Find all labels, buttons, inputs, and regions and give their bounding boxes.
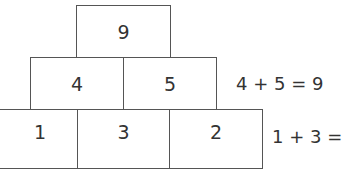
cell-value: 1 bbox=[34, 121, 46, 143]
pyramid-cell-top: 9 bbox=[76, 5, 171, 58]
pyramid-cell-bottom-left: 1 bbox=[0, 109, 78, 169]
pyramid-cell-middle-right: 5 bbox=[123, 57, 217, 110]
equation-middle-row: 4 + 5 = 9 bbox=[236, 73, 323, 94]
cell-value: 2 bbox=[210, 121, 222, 143]
cell-value: 9 bbox=[117, 21, 129, 43]
cell-value: 4 bbox=[71, 73, 83, 95]
pyramid-cell-middle-left: 4 bbox=[30, 57, 124, 110]
cell-value: 3 bbox=[117, 121, 129, 143]
equation-bottom-row: 1 + 3 = bbox=[272, 126, 342, 147]
cell-value: 5 bbox=[164, 73, 176, 95]
pyramid-cell-bottom-right: 2 bbox=[169, 109, 263, 169]
pyramid-cell-bottom-middle: 3 bbox=[77, 109, 170, 169]
